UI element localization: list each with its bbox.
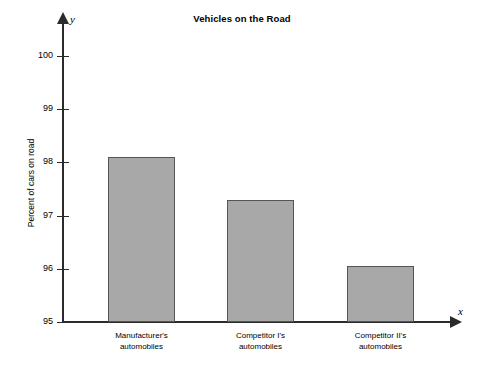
y-axis-line — [62, 22, 64, 323]
y-tick-label: 100 — [23, 50, 53, 60]
y-tick-mark — [57, 162, 69, 163]
y-tick-mark — [57, 56, 69, 57]
x-axis-arrow-icon — [450, 316, 462, 328]
y-axis-symbol: y — [70, 13, 75, 25]
y-tick-label: 96 — [23, 263, 53, 273]
y-axis-arrow-icon — [57, 12, 69, 24]
bar — [108, 157, 175, 322]
y-tick-mark — [57, 269, 69, 270]
x-axis-category-label: Competitor I'sautomobiles — [191, 330, 331, 352]
y-tick-mark — [57, 109, 69, 110]
x-axis-category-label-line: automobiles — [191, 341, 331, 352]
bar — [227, 200, 294, 322]
x-axis-category-label-line: Competitor I's — [191, 330, 331, 341]
y-tick-mark — [57, 322, 69, 323]
x-axis-symbol: x — [458, 305, 463, 317]
y-tick-label: 95 — [23, 316, 53, 326]
y-tick-mark — [57, 216, 69, 217]
chart-canvas: Vehicles on the Road y x Percent of cars… — [0, 0, 484, 367]
x-axis-category-label-line: automobiles — [311, 341, 451, 352]
bar — [347, 266, 414, 322]
y-tick-label: 97 — [23, 210, 53, 220]
x-axis-category-label: Competitor II'sautomobiles — [311, 330, 451, 352]
x-axis-category-label-line: Competitor II's — [311, 330, 451, 341]
y-axis-title: Percent of cars on road — [26, 93, 36, 273]
y-tick-label: 98 — [23, 156, 53, 166]
y-tick-label: 99 — [23, 103, 53, 113]
